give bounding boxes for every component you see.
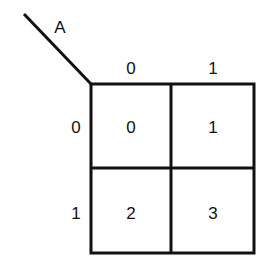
row-header-1: 1 xyxy=(66,205,86,222)
row-header-0: 0 xyxy=(66,119,86,136)
variable-label: A xyxy=(50,19,70,36)
cell-3: 3 xyxy=(203,205,223,222)
column-header-1: 1 xyxy=(203,60,223,77)
cell-1: 1 xyxy=(203,119,223,136)
cell-0: 0 xyxy=(121,119,141,136)
column-header-0: 0 xyxy=(121,60,141,77)
karnaugh-map: A 0 1 0 1 0 1 2 3 xyxy=(0,0,269,267)
cell-2: 2 xyxy=(121,205,141,222)
